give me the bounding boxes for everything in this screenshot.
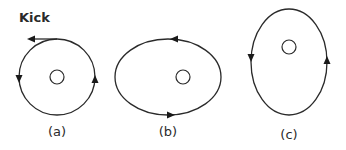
vertical-elliptical-orbit [251, 9, 327, 115]
caption-b: (b) [159, 124, 177, 139]
kick-arrow-head-icon [27, 36, 35, 43]
arrow-down-icon [248, 54, 255, 62]
arrow-right-icon [167, 112, 175, 119]
caption-a: (a) [48, 124, 66, 139]
central-body [282, 40, 296, 54]
panel-b: (b) [115, 36, 221, 140]
orbit-diagram: Kick (a) (b) (c) [0, 0, 346, 150]
panel-a: Kick (a) [16, 10, 99, 139]
arrow-up-icon [92, 75, 99, 83]
central-body [176, 70, 190, 84]
caption-c: (c) [280, 127, 297, 142]
kick-label: Kick [19, 10, 50, 25]
arrow-left-icon [170, 36, 178, 43]
arrow-up-icon [324, 56, 331, 64]
central-body [50, 70, 64, 84]
panel-c: (c) [248, 9, 331, 142]
arrow-down-icon [16, 75, 23, 83]
horizontal-elliptical-orbit [115, 39, 221, 115]
